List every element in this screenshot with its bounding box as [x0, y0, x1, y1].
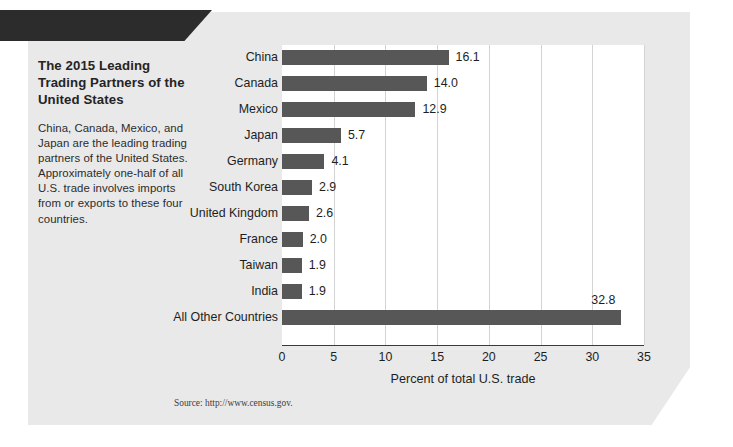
x-tick-label: 0 — [267, 350, 297, 364]
bar-value-label: 32.8 — [591, 293, 615, 307]
bar-value-label: 2.6 — [316, 206, 333, 220]
exhibit-banner — [0, 10, 212, 41]
bar — [282, 76, 427, 91]
bar — [282, 232, 303, 247]
bar — [282, 310, 621, 325]
bar-value-label: 12.9 — [422, 102, 446, 116]
x-tick-label: 35 — [629, 350, 659, 364]
x-tick-label: 5 — [319, 350, 349, 364]
x-tick-label: 25 — [526, 350, 556, 364]
category-label: All Other Countries — [173, 310, 278, 324]
gridline — [541, 45, 542, 345]
category-label: Taiwan — [239, 258, 278, 272]
bar-value-label: 5.7 — [348, 128, 365, 142]
bar — [282, 180, 312, 195]
exhibit-description: China, Canada, Mexico, and Japan are the… — [38, 121, 190, 227]
category-label: India — [251, 284, 278, 298]
bar — [282, 258, 302, 273]
plot-area: 16.114.012.95.74.12.92.62.01.91.932.8 — [282, 45, 644, 346]
category-label: South Korea — [209, 180, 278, 194]
x-tick-label: 15 — [422, 350, 452, 364]
category-label: Japan — [244, 128, 278, 142]
exhibit-title: The 2015 Leading Trading Partners of the… — [38, 57, 190, 108]
bar — [282, 128, 341, 143]
bar — [282, 154, 324, 169]
bar-value-label: 14.0 — [434, 76, 458, 90]
bar-value-label: 2.9 — [319, 180, 336, 194]
x-tick-label: 30 — [577, 350, 607, 364]
bar-value-label: 4.1 — [331, 154, 348, 168]
bar-value-label: 1.9 — [309, 258, 326, 272]
category-label: Canada — [235, 76, 278, 90]
gridline — [489, 45, 490, 345]
x-tick-label: 10 — [370, 350, 400, 364]
category-label: Mexico — [239, 102, 278, 116]
bar-value-label: 16.1 — [456, 50, 480, 64]
x-tick-label: 20 — [474, 350, 504, 364]
bar-value-label: 1.9 — [309, 284, 326, 298]
bar — [282, 206, 309, 221]
gridline — [437, 45, 438, 345]
gridline — [644, 45, 645, 345]
category-label: China — [246, 50, 278, 64]
category-label: United Kingdom — [190, 206, 278, 220]
category-label: France — [239, 232, 278, 246]
x-axis-title: Percent of total U.S. trade — [282, 372, 644, 386]
exhibit-text-column: The 2015 Leading Trading Partners of the… — [38, 57, 190, 227]
category-label: Germany — [227, 154, 278, 168]
bar-value-label: 2.0 — [310, 232, 327, 246]
bar — [282, 50, 449, 65]
bar — [282, 284, 302, 299]
bar — [282, 102, 415, 117]
